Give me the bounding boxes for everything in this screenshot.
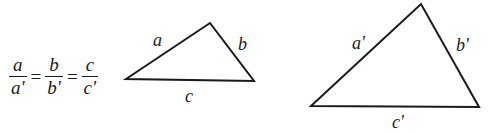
small-triangle: a b c: [126, 23, 254, 106]
side-label-a-prime: a': [352, 33, 366, 53]
side-label-c-prime: c': [392, 112, 405, 132]
side-label-c: c: [185, 86, 193, 106]
large-triangle: a' b' c': [311, 4, 479, 132]
side-label-b-prime: b': [456, 35, 470, 55]
triangles-figure: a b c a' b' c': [0, 0, 488, 133]
side-label-a: a: [153, 30, 162, 50]
side-label-b: b: [238, 34, 247, 54]
